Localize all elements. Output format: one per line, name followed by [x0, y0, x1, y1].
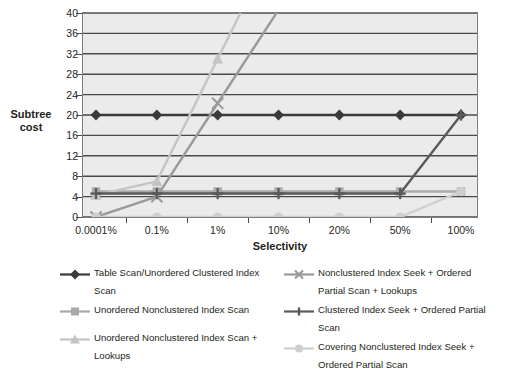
series-4 — [90, 109, 466, 199]
legend-label: Unordered Nonclustered Index Scan + Look… — [94, 332, 257, 361]
x-axis-tick-mark — [187, 218, 188, 223]
y-axis-tick-label: 12 — [52, 150, 78, 162]
legend-marker-triangle-icon — [60, 331, 90, 342]
marker-circle — [152, 212, 161, 217]
legend-column-right: Nonclustered Index Seek + Ordered Partia… — [284, 262, 500, 372]
y-axis-tick-label: 36 — [52, 27, 78, 39]
y-axis-tick-label: 40 — [52, 7, 78, 19]
marker-circle — [335, 212, 344, 217]
legend-item-unordered-nonclustered-index-scan-lookups[interactable]: Unordered Nonclustered Index Scan + Look… — [60, 327, 276, 363]
legend-marker-x-icon — [284, 266, 314, 277]
marker-circle — [213, 212, 222, 217]
legend-label: Nonclustered Index Seek + Ordered Partia… — [318, 267, 471, 296]
x-axis-tick-label: 100% — [448, 224, 475, 236]
marker-circle — [456, 187, 465, 196]
x-axis-tick-mark — [431, 218, 432, 223]
chart-svg — [83, 13, 477, 217]
x-axis-tick-labels: 0.0001%0.1%1%10%20%50%100% — [82, 224, 478, 240]
legend-item-clustered-index-seek[interactable]: Clustered Index Seek + Ordered Partial S… — [284, 299, 500, 335]
legend-label: Unordered Nonclustered Index Scan — [94, 304, 249, 315]
y-axis-tick-label: 0 — [52, 211, 78, 223]
x-axis-tick-label: 50% — [390, 224, 411, 236]
plot-canvas — [83, 13, 477, 217]
y-axis-tick-label: 32 — [52, 48, 78, 60]
legend-label: Clustered Index Seek + Ordered Partial S… — [318, 304, 486, 333]
y-axis-tick-label: 4 — [52, 191, 78, 203]
legend-item-unordered-nonclustered-index-scan[interactable]: Unordered Nonclustered Index Scan — [60, 299, 276, 326]
legend-item-nonclustered-index-seek-lookups[interactable]: Nonclustered Index Seek + Ordered Partia… — [284, 262, 500, 298]
chart-legend: Table Scan/Unordered Clustered Index Sca… — [60, 262, 500, 354]
x-axis-tick-mark — [309, 218, 310, 223]
y-axis-tick-label: 16 — [52, 129, 78, 141]
legend-marker-diamond-icon — [60, 266, 90, 277]
legend-marker-square-icon — [60, 303, 90, 314]
y-axis-tick-label: 8 — [52, 170, 78, 182]
marker-diamond — [273, 110, 284, 121]
x-axis-tick-mark — [370, 218, 371, 223]
y-axis-tick-label: 24 — [52, 89, 78, 101]
marker-diamond — [395, 110, 406, 121]
y-axis-tick-labels: 0481216202428323640 — [48, 12, 78, 218]
x-axis-title: Selectivity — [82, 240, 478, 252]
marker-triangle — [212, 53, 223, 63]
x-axis-tick-label: 1% — [210, 224, 225, 236]
x-axis-tick-mark — [126, 218, 127, 223]
series-0 — [91, 110, 467, 121]
plot-area — [82, 12, 478, 218]
marker-circle — [274, 212, 283, 217]
marker-triangle — [151, 176, 162, 186]
y-axis-tick-label: 28 — [52, 68, 78, 80]
legend-column-left: Table Scan/Unordered Clustered Index Sca… — [60, 262, 276, 364]
x-axis-tick-mark — [248, 218, 249, 223]
marker-diamond — [151, 110, 162, 121]
y-axis-tick-label: 20 — [52, 109, 78, 121]
x-axis-tick-label: 10% — [268, 224, 289, 236]
marker-circle — [396, 212, 405, 217]
x-axis-tick-label: 20% — [329, 224, 350, 236]
legend-marker-circle-icon — [284, 340, 314, 351]
legend-label: Covering Nonclustered Index Seek + Order… — [318, 341, 475, 370]
legend-item-covering-nonclustered-index-seek[interactable]: Covering Nonclustered Index Seek + Order… — [284, 336, 500, 372]
marker-x — [212, 98, 223, 109]
marker-diamond — [334, 110, 345, 121]
legend-label: Table Scan/Unordered Clustered Index Sca… — [94, 267, 259, 296]
marker-diamond — [91, 110, 102, 121]
legend-item-table-scan[interactable]: Table Scan/Unordered Clustered Index Sca… — [60, 262, 276, 298]
x-axis-tick-label: 0.0001% — [75, 224, 116, 236]
legend-marker-plus-icon — [284, 303, 314, 314]
x-axis-tick-label: 0.1% — [145, 224, 169, 236]
